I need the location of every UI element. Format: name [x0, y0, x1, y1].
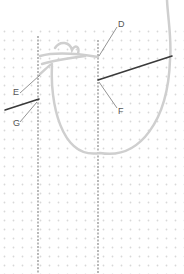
label-d: D [118, 20, 125, 29]
label-e: E [13, 88, 19, 97]
stitch-diagram: D E F G [0, 0, 184, 274]
fabric-grid [0, 30, 184, 274]
label-f: F [118, 107, 124, 116]
label-g: G [13, 119, 20, 128]
diagram-graphic [0, 0, 184, 274]
